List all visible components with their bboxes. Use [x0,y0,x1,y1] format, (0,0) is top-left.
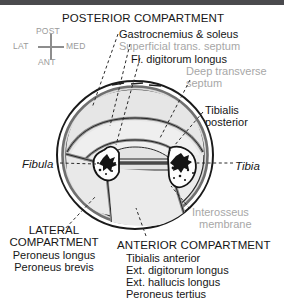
leg-cross-section-drawing [0,0,284,305]
diagram-root: POST ANT LAT MED POSTERIOR COMPARTMENT G… [0,0,284,305]
